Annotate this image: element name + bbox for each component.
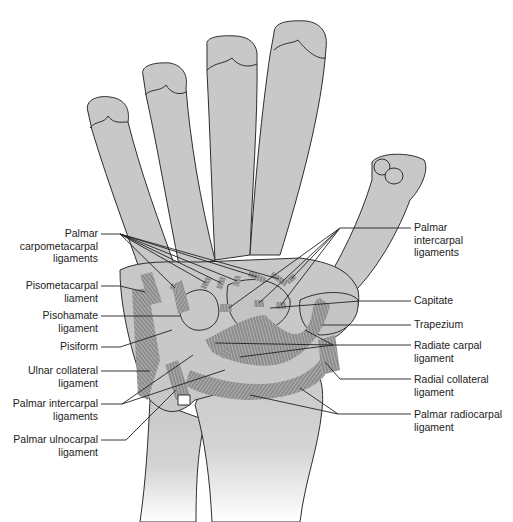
label-capitate: Capitate (414, 294, 453, 307)
label-radial-collateral-ligament: Radial collateral ligament (414, 373, 489, 398)
label-ulnar-collateral-ligament: Ulnar collateral ligament (28, 364, 98, 389)
label-palmar-radiocarpal-ligament: Palmar radiocarpal ligament (414, 408, 502, 433)
label-trapezium: Trapezium (414, 318, 463, 331)
label-palmar-intercarpal-ligaments-right: Palmar intercarpal ligaments (414, 221, 463, 259)
ulna-bone (140, 400, 205, 522)
label-radiate-carpal-ligament: Radiate carpal ligament (414, 339, 482, 364)
metacarpal-3 (207, 36, 257, 260)
label-pisometacarpal-ligament: Pisometacarpal liament (26, 279, 98, 304)
label-pisiform: Pisiform (60, 340, 98, 353)
label-palmar-ulnocarpal-ligament: Palmar ulnocarpal ligament (13, 433, 98, 458)
label-pisohamate-ligament: Pisohamate ligament (43, 309, 98, 334)
label-palmar-intercarpal-ligaments-left: Palmar intercarpal ligaments (13, 397, 98, 422)
label-palmar-carpometacarpal-ligaments: Palmar carpometacarpal ligaments (20, 227, 98, 265)
